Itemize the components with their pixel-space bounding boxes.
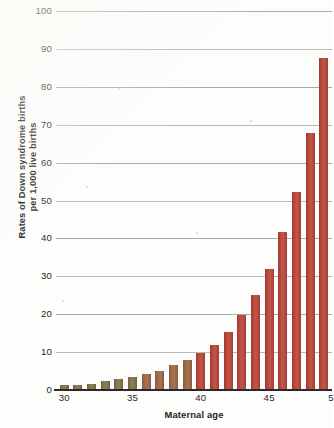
y-axis-tick-40: 40 bbox=[22, 232, 52, 243]
y-axis-tick-0: 0 bbox=[22, 384, 52, 395]
bar-age-49 bbox=[319, 58, 328, 390]
bar-age-47 bbox=[292, 192, 301, 390]
y-axis-tick-30: 30 bbox=[22, 270, 52, 281]
bar-age-35 bbox=[128, 377, 137, 390]
bar-age-36 bbox=[142, 374, 151, 390]
bar-age-41 bbox=[210, 345, 219, 390]
y-axis-tick-100: 100 bbox=[22, 5, 52, 16]
x-axis-line bbox=[54, 389, 332, 391]
x-axis-tick-50: 5 bbox=[328, 392, 334, 403]
bar-age-37 bbox=[155, 371, 164, 390]
x-axis-tick-30: 30 bbox=[59, 392, 70, 403]
bar-age-42 bbox=[224, 332, 233, 390]
y-axis-tick-70: 70 bbox=[22, 119, 52, 130]
bar-series bbox=[56, 11, 332, 390]
y-axis-tick-50: 50 bbox=[22, 195, 52, 206]
bar-age-44 bbox=[251, 295, 260, 390]
y-axis-tick-80: 80 bbox=[22, 81, 52, 92]
y-axis-tick-20: 20 bbox=[22, 308, 52, 319]
y-axis-tick-labels: 0102030405060708090100 bbox=[20, 0, 52, 428]
bar-age-40 bbox=[196, 353, 205, 390]
bar-age-39 bbox=[183, 360, 192, 390]
x-axis-tick-labels: 303540455 bbox=[56, 392, 332, 406]
bar-age-38 bbox=[169, 365, 178, 390]
bar-age-48 bbox=[306, 133, 315, 390]
y-axis-tick-90: 90 bbox=[22, 43, 52, 54]
bar-age-43 bbox=[237, 315, 246, 390]
bar-age-46 bbox=[278, 232, 287, 390]
x-axis-tick-35: 35 bbox=[127, 392, 138, 403]
bar-age-45 bbox=[265, 269, 274, 390]
y-axis-tick-60: 60 bbox=[22, 157, 52, 168]
y-axis-tick-10: 10 bbox=[22, 346, 52, 357]
x-axis-tick-40: 40 bbox=[195, 392, 206, 403]
x-axis-tick-45: 45 bbox=[264, 392, 275, 403]
x-axis-title: Maternal age bbox=[56, 409, 332, 420]
